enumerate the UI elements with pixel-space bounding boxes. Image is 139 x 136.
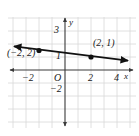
x-axis-name: x (124, 72, 128, 81)
point-label-2-1: (2, 1) (93, 38, 115, 48)
coordinate-plane-figure: 3 1 −2 −2 2 4 O x y (−2, 2) (2, 1) (0, 0, 139, 136)
point-label-minus2-2: (−2, 2) (7, 48, 35, 58)
x-tick-label-2: 2 (88, 73, 93, 83)
y-tick-label-1: 1 (56, 51, 61, 61)
x-tick-label-4: 4 (114, 73, 119, 83)
y-tick-label-3: 3 (54, 25, 59, 35)
origin-label: O (54, 73, 61, 83)
data-point-minus2-2 (36, 48, 41, 53)
y-axis-name: y (69, 18, 73, 27)
data-point-2-1 (88, 54, 93, 59)
x-tick-label-minus2: −2 (22, 73, 34, 83)
y-tick-label-minus2: −2 (50, 84, 62, 94)
